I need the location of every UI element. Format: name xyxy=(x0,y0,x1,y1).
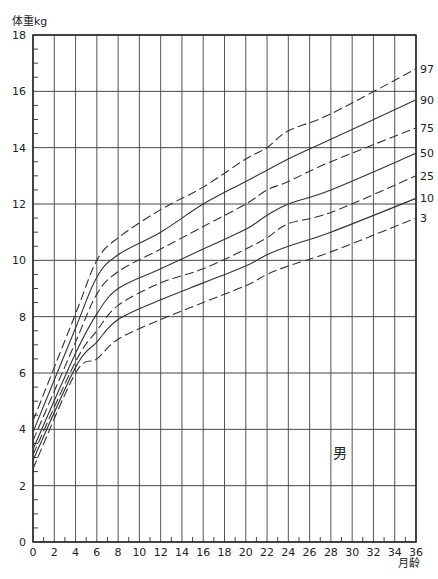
y-tick-label: 4 xyxy=(19,423,26,436)
percentile-label-50: 50 xyxy=(420,147,434,160)
y-tick-label: 2 xyxy=(19,480,26,493)
x-tick-label: 4 xyxy=(72,546,79,559)
x-tick-label: 12 xyxy=(154,546,168,559)
x-axis-title: 月龄 xyxy=(398,556,420,570)
percentile-label-25: 25 xyxy=(420,170,434,183)
x-tick-label: 18 xyxy=(218,546,232,559)
x-tick-label: 30 xyxy=(345,546,359,559)
y-tick-label: 6 xyxy=(19,367,26,380)
percentile-label-97: 97 xyxy=(420,63,434,76)
x-tick-label: 26 xyxy=(303,546,317,559)
grid-lines xyxy=(33,35,416,542)
x-tick-labels: 024681012141618202224262830323436 xyxy=(30,546,424,559)
percentile-label-90: 90 xyxy=(420,94,434,107)
x-tick-label: 32 xyxy=(366,546,380,559)
growth-chart: 024681012141618 024681012141618202224262… xyxy=(0,0,438,579)
x-tick-label: 20 xyxy=(239,546,253,559)
percentile-label-10: 10 xyxy=(420,192,434,205)
y-tick-labels: 024681012141618 xyxy=(12,29,26,549)
x-tick-label: 0 xyxy=(30,546,37,559)
x-tick-label: 28 xyxy=(324,546,338,559)
x-tick-label: 10 xyxy=(132,546,146,559)
x-tick-label: 2 xyxy=(51,546,58,559)
x-tick-label: 6 xyxy=(93,546,100,559)
y-axis-title: 体重kg xyxy=(12,14,47,28)
y-tick-label: 12 xyxy=(12,198,26,211)
y-tick-label: 8 xyxy=(19,311,26,324)
percentile-label-75: 75 xyxy=(420,122,434,135)
percentile-label-3: 3 xyxy=(420,212,427,225)
y-tick-label: 18 xyxy=(12,29,26,42)
y-tick-label: 16 xyxy=(12,85,26,98)
x-tick-label: 22 xyxy=(260,546,274,559)
x-tick-label: 16 xyxy=(196,546,210,559)
y-tick-label: 14 xyxy=(12,142,26,155)
y-tick-label: 0 xyxy=(19,536,26,549)
x-tick-label: 14 xyxy=(175,546,189,559)
percentile-labels: 9790755025103 xyxy=(420,63,434,225)
sex-label: 男 xyxy=(333,445,347,461)
y-tick-label: 10 xyxy=(12,254,26,267)
x-tick-label: 24 xyxy=(281,546,295,559)
x-tick-label: 8 xyxy=(115,546,122,559)
